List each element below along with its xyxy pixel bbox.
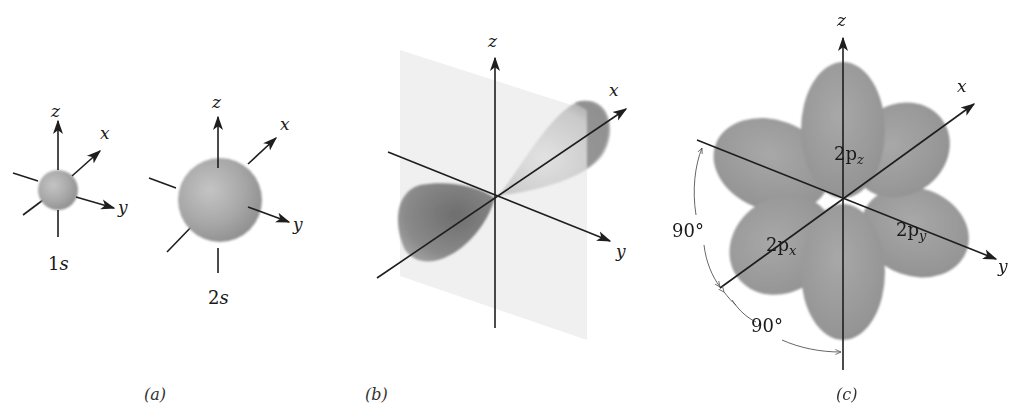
axis-label-x: x <box>609 80 619 100</box>
axis-label-z: z <box>211 92 222 112</box>
panel-c: z x y 2pz 2px 2py 90° 90° (c) <box>672 10 1008 404</box>
axis-label-y: y <box>615 241 626 261</box>
angle-arc-lower-head <box>724 292 736 305</box>
axis-label-y: y <box>117 197 128 217</box>
axis-x-negative <box>23 200 43 215</box>
axis-x <box>72 151 100 176</box>
orbital-1s: z x y 1s <box>13 101 128 274</box>
orbital-2s: z x y 2s <box>149 92 303 308</box>
panel-a: z x y 1s z x y 2s (a) <box>13 92 303 404</box>
axis-y-negative <box>149 178 176 188</box>
axis-label-z: z <box>487 31 498 51</box>
angle-arc-upper-lower-end <box>704 245 720 287</box>
sphere-2s <box>178 158 262 242</box>
axis-label-y: y <box>292 214 303 234</box>
axis-y-negative <box>13 173 38 181</box>
axis-label-y: y <box>997 256 1008 276</box>
axis-x <box>248 138 276 164</box>
orbital-figure: z x y 1s z x y 2s (a) <box>0 0 1019 420</box>
caption-a: (a) <box>144 385 166 404</box>
orbital-label-1s: 1s <box>48 253 69 274</box>
angle-label-bottom: 90° <box>751 315 783 336</box>
panel-b: z x y (b) <box>365 31 626 404</box>
caption-c: (c) <box>836 385 857 404</box>
orbital-label-2s: 2s <box>208 287 229 308</box>
axis-label-z: z <box>836 10 847 30</box>
axis-label-x: x <box>957 76 967 96</box>
axis-label-x: x <box>100 123 110 143</box>
axis-label-x: x <box>280 114 290 134</box>
angle-arc-upper <box>694 148 702 215</box>
axis-label-z: z <box>50 101 61 121</box>
angle-label-left: 90° <box>672 220 704 241</box>
caption-b: (b) <box>365 385 388 404</box>
axis-y <box>76 197 114 208</box>
angle-arc-lower <box>782 340 841 352</box>
